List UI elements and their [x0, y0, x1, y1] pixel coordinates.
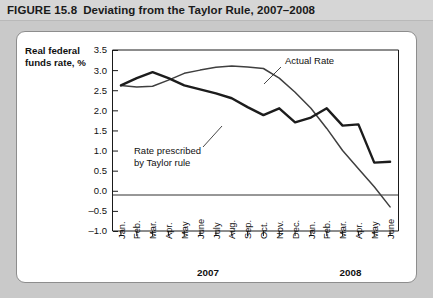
x-tick-label: Oct. — [259, 222, 269, 239]
x-axis-tick-labels: Jan.Feb.Mar.Apr.MayJuneJulyAug.Sep.Oct.N… — [117, 219, 396, 239]
x-tick-label: June — [386, 219, 396, 239]
y-tick-label: –0.5 — [89, 205, 108, 216]
y-tick-label: 1.0 — [94, 145, 107, 156]
plot-area: Real federal funds rate, % 3.53.02.52.01… — [17, 32, 418, 284]
x-tick-label: Sep. — [243, 220, 253, 239]
line-chart-svg: Real federal funds rate, % 3.53.02.52.01… — [17, 32, 418, 284]
chart-panel: Real federal funds rate, % 3.53.02.52.01… — [16, 31, 417, 283]
x-tick-label: Jan. — [117, 221, 127, 239]
x-tick-label: Dec. — [291, 220, 301, 239]
actual-rate-annotation: Actual Rate — [285, 55, 334, 66]
x-axis-year-labels: 20072008 — [197, 267, 362, 278]
y-axis-title-line1: Real federal — [25, 45, 80, 56]
y-tick-label: 2.5 — [94, 85, 107, 96]
x-tick-label: Mar. — [338, 221, 348, 239]
y-tick-label: 2.0 — [94, 105, 107, 116]
x-axis-year-label: 2008 — [340, 267, 362, 278]
x-tick-label: June — [196, 219, 206, 239]
y-tick-label: –1.0 — [89, 225, 108, 236]
x-tick-label: Apr. — [354, 222, 364, 239]
taylor-rule-annotation-line2: by Taylor rule — [134, 157, 190, 168]
x-tick-label: May — [180, 221, 190, 239]
x-tick-label: Aug. — [227, 220, 237, 239]
x-tick-label: Jan. — [307, 221, 317, 239]
taylor-rule-leader-line — [203, 126, 222, 147]
y-axis-title: Real federal funds rate, % — [25, 45, 86, 68]
y-tick-label: 0.5 — [94, 165, 107, 176]
figure-number-label: FIGURE 15.8 — [7, 4, 77, 16]
y-tick-label: 3.0 — [94, 65, 107, 76]
x-tick-label: Feb. — [322, 220, 332, 239]
y-axis-tick-labels: 3.53.02.52.01.51.00.50.0–0.5–1.0 — [89, 44, 108, 236]
figure-container: FIGURE 15.8 Deviating from the Taylor Ru… — [0, 0, 433, 298]
taylor-rule-annotation-line1: Rate prescribed — [134, 145, 201, 156]
x-tick-label: July — [212, 222, 222, 239]
x-tick-label: May — [370, 221, 380, 239]
x-tick-label: Feb. — [132, 220, 142, 239]
series-line-actual-rate — [121, 66, 390, 207]
y-axis-tick-marks — [113, 51, 118, 232]
x-tick-label: Nov. — [275, 221, 285, 239]
x-axis-year-label: 2007 — [197, 267, 219, 278]
y-axis-title-line2: funds rate, % — [25, 57, 86, 68]
y-tick-label: 1.5 — [94, 125, 107, 136]
x-tick-label: Apr. — [164, 222, 174, 239]
x-tick-label: Mar. — [148, 221, 158, 239]
y-tick-label: 3.5 — [94, 44, 107, 55]
figure-title-bar: FIGURE 15.8 Deviating from the Taylor Ru… — [0, 0, 433, 21]
figure-title-text: Deviating from the Taylor Rule, 2007–200… — [83, 4, 315, 16]
x-axis-tick-marks — [121, 231, 390, 236]
y-tick-label: 0.0 — [94, 185, 107, 196]
